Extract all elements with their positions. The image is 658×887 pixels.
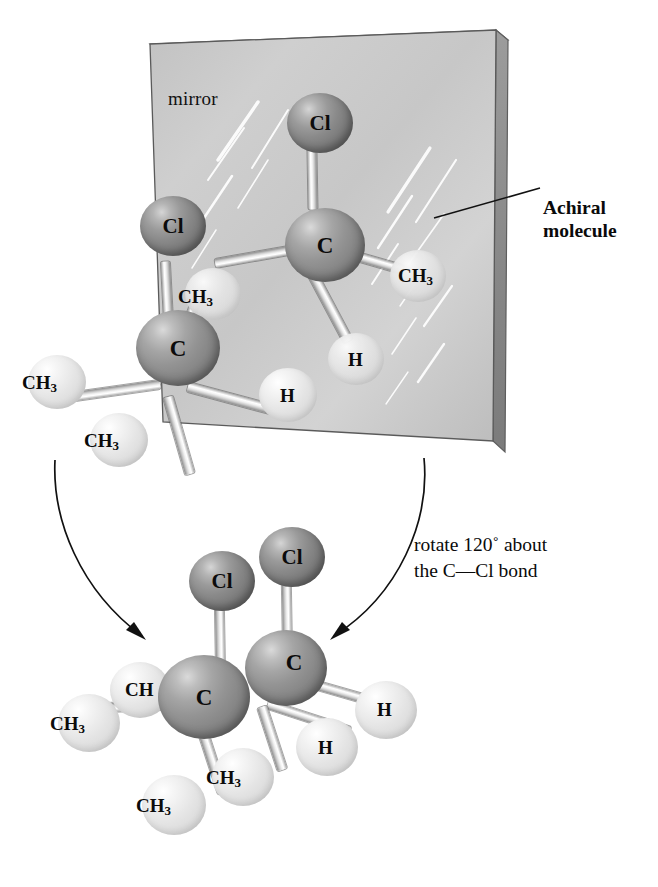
- label-front-ch3-left: CH3: [22, 373, 57, 395]
- label-bottom-ch3-bottom-mid: CH3: [206, 768, 241, 790]
- rotation-note: rotate 120˚ about the C—Cl bond: [414, 532, 547, 585]
- achiral-molecule-callout: Achiral molecule: [543, 196, 617, 242]
- right-rotation-arrow-path: [334, 458, 425, 636]
- atom-bottom-cl-right: Cl: [259, 527, 325, 587]
- atom-bottom-c-left: C: [158, 655, 250, 739]
- label-front-ch3-down: CH3: [84, 431, 119, 453]
- label-front-ch3-up: CH3: [178, 287, 213, 309]
- label-reflected-c: C: [317, 234, 334, 257]
- label-bottom-cl-right: Cl: [282, 547, 303, 568]
- label-bottom-cl-left: Cl: [212, 571, 233, 592]
- label-bottom-h-mid: H: [318, 738, 333, 757]
- achiral-callout-line2: molecule: [543, 219, 617, 242]
- atom-reflected-c: C: [285, 208, 365, 282]
- left-rotation-arrowhead: [126, 622, 146, 640]
- label-reflected-h: H: [348, 350, 363, 369]
- atom-bottom-c-right: C: [245, 630, 327, 706]
- atom-front-cl: Cl: [140, 196, 206, 256]
- mirror-side-edge: [493, 30, 508, 452]
- label-bottom-h-right: H: [377, 700, 392, 719]
- atom-bottom-cl-left: Cl: [189, 551, 255, 611]
- mirror-top-edge: [150, 30, 508, 55]
- label-reflected-cl: Cl: [310, 113, 331, 134]
- rotation-note-line2: the C—Cl bond: [414, 558, 547, 584]
- label-bottom-ch-partial: CH: [125, 680, 154, 699]
- label-bottom-ch3-bottom-left: CH3: [136, 796, 171, 818]
- left-rotation-arrow-path: [55, 460, 142, 636]
- label-front-c: C: [170, 337, 187, 360]
- atom-front-c: C: [136, 310, 220, 386]
- label-bottom-c-right: C: [286, 651, 303, 674]
- achiral-leader-line: [434, 188, 540, 218]
- rotation-note-line1: rotate 120˚ about: [414, 532, 547, 558]
- right-rotation-arrowhead: [330, 622, 350, 640]
- atom-reflected-cl: Cl: [287, 93, 353, 153]
- label-bottom-ch3-far-left: CH3: [50, 714, 85, 736]
- label-reflected-ch3-right: CH3: [398, 266, 433, 288]
- bond-front-c-ch3-down: [163, 396, 195, 476]
- achiral-callout-line1: Achiral: [543, 196, 617, 219]
- label-bottom-c-left: C: [196, 686, 213, 709]
- label-front-cl: Cl: [163, 216, 184, 237]
- mirror-label: mirror: [168, 88, 218, 110]
- label-front-h: H: [280, 386, 295, 405]
- figure-canvas: mirror CH3 H Cl C: [0, 0, 658, 887]
